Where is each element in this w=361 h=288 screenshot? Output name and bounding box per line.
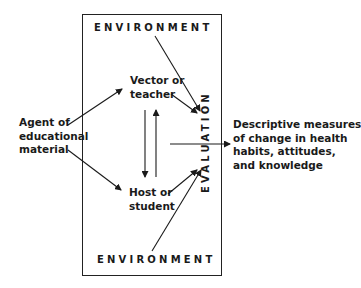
arrow-env-bottom-to-eval (152, 170, 201, 251)
arrow-agent-to-host (68, 150, 121, 190)
arrow-agent-to-vector (68, 89, 122, 125)
arrow-env-top-to-eval (155, 36, 200, 111)
arrow-vector-to-eval (171, 94, 197, 113)
arrow-host-to-eval (168, 170, 197, 194)
